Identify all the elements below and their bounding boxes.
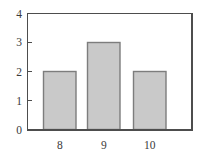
- bar-8[interactable]: [44, 72, 77, 130]
- x-tick-label-10: 10: [144, 139, 156, 151]
- y-tick-label-2: 2: [16, 66, 22, 78]
- x-tick-label-9: 9: [101, 139, 107, 151]
- chart-canvas: 0 1 2 3 4 8 9 10: [0, 0, 200, 163]
- x-tick-label-8: 8: [57, 139, 63, 151]
- y-tick-label-4: 4: [16, 8, 22, 20]
- y-tick-label-3: 3: [16, 36, 22, 48]
- y-axis-tick-labels: 0 1 2 3 4: [16, 8, 22, 136]
- bar-chart: 0 1 2 3 4 8 9 10: [0, 0, 200, 163]
- bar-10[interactable]: [134, 72, 167, 130]
- y-tick-label-1: 1: [16, 95, 22, 107]
- y-tick-label-0: 0: [16, 124, 22, 136]
- bar-9[interactable]: [88, 43, 121, 130]
- x-axis-tick-labels: 8 9 10: [57, 139, 156, 151]
